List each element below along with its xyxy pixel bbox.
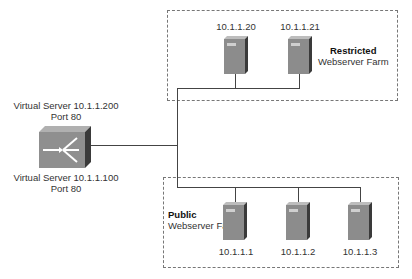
virtual-server-label-bottom: Virtual Server 10.1.1.100 Port 80 — [0, 172, 132, 194]
trunk-line — [177, 88, 178, 187]
content-switch-icon — [39, 126, 93, 168]
server-ip-label: 10.1.1.3 — [334, 246, 386, 257]
public-server2-link — [298, 187, 299, 202]
server-ip-label: 10.1.1.1 — [210, 246, 262, 257]
public-server1-link — [235, 187, 236, 202]
virtual-server-200-ip: Virtual Server 10.1.1.200 — [0, 100, 132, 111]
restricted-server2-link — [299, 74, 300, 88]
restricted-zone-title: Restricted — [330, 45, 376, 56]
virtual-server-100-ip: Virtual Server 10.1.1.100 — [0, 172, 132, 183]
switch-uplink — [90, 145, 178, 146]
public-zone-title: Public — [168, 209, 197, 220]
server-ip-label: 10.1.1.21 — [274, 21, 326, 32]
server-ip-label: 10.1.1.20 — [210, 21, 262, 32]
virtual-server-100-port: Port 80 — [0, 183, 132, 194]
server-icon — [288, 36, 312, 74]
server-ip-label: 10.1.1.2 — [272, 246, 324, 257]
restricted-zone-subtitle: Webserver Farm — [318, 56, 389, 67]
server-icon — [224, 36, 248, 74]
restricted-bus — [177, 88, 300, 89]
virtual-server-label-top: Virtual Server 10.1.1.200 Port 80 — [0, 100, 132, 122]
public-server3-link — [360, 187, 361, 202]
server-icon — [223, 202, 247, 240]
server-icon — [348, 202, 372, 240]
public-bus — [177, 187, 361, 188]
server-icon — [286, 202, 310, 240]
restricted-server1-link — [235, 74, 236, 88]
virtual-server-200-port: Port 80 — [0, 111, 132, 122]
